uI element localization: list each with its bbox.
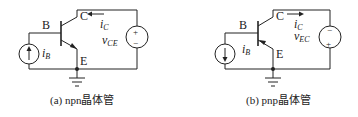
- arrow-right-icon: [299, 12, 304, 17]
- plus-sign: +: [326, 39, 331, 49]
- ib-label: iB: [242, 42, 250, 57]
- base-label: B: [239, 18, 247, 32]
- minus-sign: −: [327, 25, 332, 35]
- node-dot: [271, 67, 275, 71]
- caption-npn: (a) npn晶体管: [50, 91, 114, 107]
- ib-label: iB: [42, 46, 50, 61]
- arrow-up-icon: [27, 46, 32, 51]
- ic-label: iC: [100, 17, 109, 32]
- collector-label: C: [80, 9, 88, 23]
- plus-sign: +: [133, 27, 138, 37]
- emitter-label: E: [276, 47, 283, 61]
- base-label: B: [42, 18, 50, 32]
- node-dot: [75, 67, 79, 71]
- emitter-arrow-icon: [70, 43, 77, 49]
- emitter-label: E: [80, 54, 87, 68]
- caption-pnp: (b) pnp晶体管: [246, 91, 311, 107]
- arrow-down-icon: [223, 57, 228, 62]
- minus-sign: −: [133, 38, 138, 48]
- collector-label: C: [276, 9, 284, 23]
- vce-label: vCE: [102, 33, 118, 48]
